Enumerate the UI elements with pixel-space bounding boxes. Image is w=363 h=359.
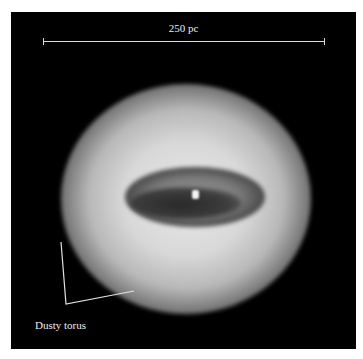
astronomical-image: 250 pc Dusty torus (11, 12, 356, 349)
annotation-pointer-lines (11, 12, 356, 349)
torus-annotation-label: Dusty torus (35, 319, 86, 331)
